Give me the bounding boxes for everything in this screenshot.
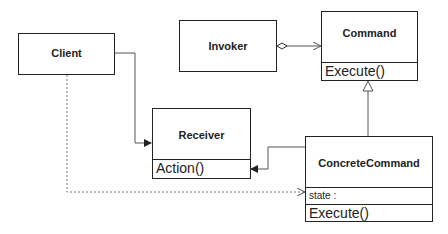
association-client-receiver (114, 53, 151, 143)
attribute: state : (306, 187, 432, 204)
association-concrete-receiver (251, 147, 305, 169)
operation: Action() (153, 159, 250, 179)
class-client: Client (18, 33, 115, 75)
class-receiver: Receiver Action() (152, 108, 251, 179)
class-name: Command (322, 27, 417, 39)
class-concrete-command: ConcreteCommand state : Execute() (305, 136, 433, 222)
class-name: Client (19, 47, 114, 59)
class-name: ConcreteCommand (306, 157, 432, 169)
class-name: Receiver (153, 129, 250, 141)
operation: Execute() (306, 204, 432, 222)
class-command: Command Execute() (321, 11, 418, 81)
generalization-triangle-icon (363, 81, 373, 91)
class-invoker: Invoker (179, 20, 277, 72)
operation: Execute() (322, 62, 417, 81)
class-name: Invoker (180, 40, 276, 52)
